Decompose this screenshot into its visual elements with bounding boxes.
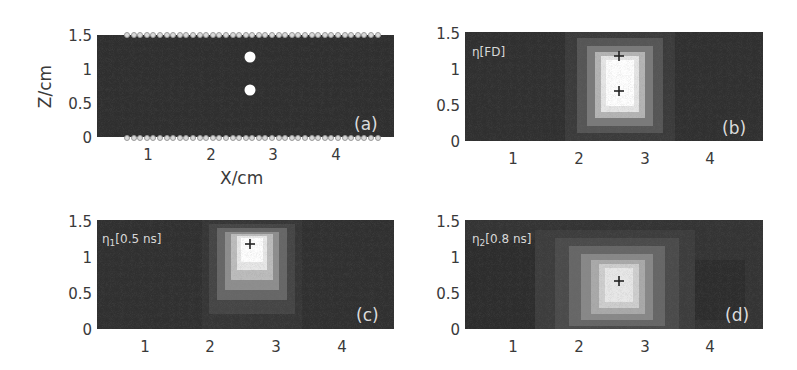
ytick-b-0.5: 0.5 [420, 99, 460, 114]
optode-marker-icon [335, 135, 341, 141]
ytick-c-1.5: 1.5 [52, 215, 92, 230]
optode-marker-icon [276, 32, 282, 38]
panel-tag-a: (a) [354, 116, 378, 133]
optode-marker-icon [230, 135, 236, 141]
panel-tag-c: (c) [356, 307, 379, 324]
optode-marker-icon [203, 32, 209, 38]
xtick-b-4: 4 [700, 152, 720, 167]
optode-marker-icon [124, 135, 130, 141]
ytick-a-0.5: 0.5 [52, 97, 92, 112]
optode-marker-icon [223, 135, 229, 141]
optode-marker-icon [295, 32, 301, 38]
optode-marker-icon [197, 135, 203, 141]
optode-marker-icon [328, 32, 334, 38]
optode-marker-icon [355, 135, 361, 141]
xtick-d-3: 3 [635, 340, 655, 355]
optode-marker-icon [210, 32, 216, 38]
optode-marker-icon [262, 135, 268, 141]
optode-marker-icon [137, 32, 143, 38]
x-axis-label: X/cm [220, 170, 263, 187]
optode-marker-icon [144, 32, 150, 38]
optode-marker-icon [315, 135, 321, 141]
inclusion-lower [245, 85, 256, 96]
optode-marker-icon [256, 32, 262, 38]
optode-marker-icon [203, 135, 209, 141]
optode-marker-icon [282, 135, 288, 141]
ytick-d-1.5: 1.5 [420, 215, 460, 230]
optode-marker-icon [230, 32, 236, 38]
optode-marker-icon [256, 135, 262, 141]
panel-b-plot [465, 32, 763, 141]
xtick-b-2: 2 [569, 152, 589, 167]
optode-marker-icon [295, 135, 301, 141]
optode-marker-icon [368, 32, 374, 38]
panel-tag-b: (b) [722, 120, 746, 137]
optode-marker-icon [322, 135, 328, 141]
eta-fd-image [465, 32, 763, 141]
optode-marker-icon [210, 135, 216, 141]
xtick-b-3: 3 [635, 152, 655, 167]
optode-marker-icon [322, 32, 328, 38]
optode-marker-icon [243, 32, 249, 38]
optode-marker-icon [157, 32, 163, 38]
optode-marker-icon [131, 135, 137, 141]
optode-marker-icon [164, 32, 170, 38]
xtick-a-4: 4 [326, 148, 346, 163]
optode-marker-icon [269, 135, 275, 141]
optode-marker-icon [223, 32, 229, 38]
ytick-d-1: 1 [420, 251, 460, 266]
optode-marker-icon [236, 135, 242, 141]
optode-marker-icon [183, 32, 189, 38]
xtick-c-3: 3 [266, 340, 286, 355]
ytick-c-0: 0 [52, 323, 92, 338]
optode-marker-icon [262, 32, 268, 38]
optode-marker-icon [137, 135, 143, 141]
optode-marker-icon [216, 135, 222, 141]
phantom-image [97, 35, 394, 137]
optode-marker-icon [269, 32, 275, 38]
ytick-c-1: 1 [52, 251, 92, 266]
optode-marker-icon [144, 135, 150, 141]
optode-marker-icon [289, 135, 295, 141]
optode-marker-icon [375, 32, 381, 38]
panel-a-plot [97, 35, 394, 137]
optode-marker-icon [348, 32, 354, 38]
optode-marker-icon [348, 135, 354, 141]
ytick-a-1: 1 [52, 63, 92, 78]
detector-markers-bottom [124, 135, 381, 142]
optode-marker-icon [328, 135, 334, 141]
inset-label-c: η1[0.5 ns] [102, 233, 161, 248]
optode-marker-icon [375, 135, 381, 141]
optode-marker-icon [190, 32, 196, 38]
optode-marker-icon [190, 135, 196, 141]
inclusion-upper [245, 52, 256, 63]
xtick-d-1: 1 [503, 340, 523, 355]
xtick-c-2: 2 [200, 340, 220, 355]
y-axis-label: Z/cm [37, 65, 54, 108]
optode-marker-icon [124, 32, 130, 38]
optode-marker-icon [315, 32, 321, 38]
optode-marker-icon [368, 135, 374, 141]
optode-marker-icon [170, 32, 176, 38]
optode-marker-icon [249, 135, 255, 141]
ytick-a-1.5: 1.5 [52, 29, 92, 44]
ytick-d-0: 0 [420, 323, 460, 338]
optode-marker-icon [170, 135, 176, 141]
inset-label-b: η[FD] [472, 46, 505, 61]
xtick-d-2: 2 [569, 340, 589, 355]
optode-marker-icon [249, 32, 255, 38]
xtick-c-1: 1 [135, 340, 155, 355]
ytick-d-0.5: 0.5 [420, 287, 460, 302]
ytick-a-0: 0 [52, 131, 92, 146]
optode-marker-icon [243, 135, 249, 141]
xtick-a-3: 3 [263, 148, 283, 163]
optode-marker-icon [309, 135, 315, 141]
ytick-b-0: 0 [420, 135, 460, 150]
xtick-b-1: 1 [503, 152, 523, 167]
inset-label-d: η2[0.8 ns] [472, 233, 531, 248]
optode-marker-icon [361, 32, 367, 38]
xtick-a-1: 1 [138, 148, 158, 163]
optode-marker-icon [183, 135, 189, 141]
ytick-c-0.5: 0.5 [52, 287, 92, 302]
xtick-d-4: 4 [700, 340, 720, 355]
